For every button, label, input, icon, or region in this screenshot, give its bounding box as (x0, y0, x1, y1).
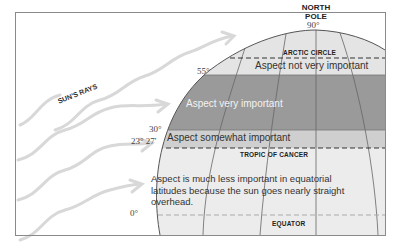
north-pole-label: NORTH POLE (300, 3, 332, 21)
latitude-tropic-label: 23° 27' (131, 136, 156, 146)
latitude-aspect-diagram: NORTH POLE 90° ARCTIC CIRCLE Aspect not … (0, 0, 399, 250)
equator-label: EQUATOR (272, 220, 305, 227)
arctic-circle-label: ARCTIC CIRCLE (283, 49, 336, 56)
latitude-0-label: 0° (130, 208, 138, 218)
zone-equatorial-note: Aspect is much less important in equator… (151, 173, 351, 208)
latitude-30-label: 30° (149, 124, 162, 134)
north-pole-label-line1: NORTH (300, 3, 332, 12)
globe-illustration (0, 0, 399, 250)
zone-mid-label: Aspect very important (186, 98, 283, 109)
latitude-90-label: 90° (307, 20, 320, 30)
zone-subtropical-label: Aspect somewhat important (167, 132, 290, 143)
zone-polar-label: Aspect not very important (255, 60, 368, 71)
latitude-55-label: 55° (197, 66, 210, 76)
tropic-of-cancer-label: TROPIC OF CANCER (240, 151, 308, 158)
